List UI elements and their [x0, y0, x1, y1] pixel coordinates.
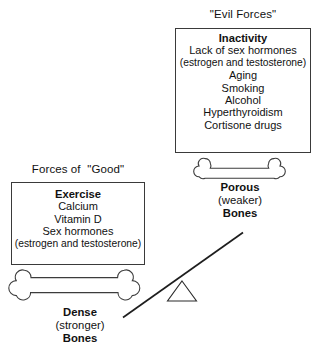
dense-bone-label-line3: Bones — [30, 332, 130, 345]
evil-item-5: Alcohol — [176, 94, 310, 106]
good-forces-heading: Forces of "Good" — [11, 163, 145, 176]
evil-item-3: Aging — [176, 69, 310, 81]
porous-bone-label-line2: (weaker) — [194, 194, 286, 207]
dense-bone-label-line1: Dense — [30, 306, 130, 319]
dense-bone-label-line2: (stronger) — [30, 319, 130, 332]
good-forces-box: Exercise Calcium Vitamin D Sex hormones … — [11, 182, 145, 265]
porous-bone-label: Porous (weaker) Bones — [194, 181, 286, 221]
evil-item-6: Hyperthyroidism — [176, 106, 310, 118]
evil-item-7: Cortisone drugs — [176, 119, 310, 131]
good-item-1: Calcium — [12, 200, 144, 212]
porous-bone-label-line3: Bones — [194, 207, 286, 220]
good-item-2: Vitamin D — [12, 213, 144, 225]
bone-balance-diagram: "Evil Forces" Inactivity Lack of sex hor… — [0, 0, 321, 354]
good-item-0: Exercise — [12, 188, 144, 200]
triangle-fulcrum-icon — [168, 281, 197, 301]
porous-bone-icon — [194, 158, 286, 178]
good-item-4: (estrogen and testosterone) — [12, 238, 144, 250]
evil-item-0: Inactivity — [176, 32, 310, 44]
dense-bone-icon — [9, 270, 140, 300]
evil-item-1: Lack of sex hormones — [176, 44, 310, 56]
evil-forces-box: Inactivity Lack of sex hormones (estroge… — [175, 28, 311, 153]
good-item-3: Sex hormones — [12, 225, 144, 237]
evil-item-4: Smoking — [176, 82, 310, 94]
porous-bone-label-line1: Porous — [194, 181, 286, 194]
evil-forces-heading: "Evil Forces" — [175, 8, 311, 21]
dense-bone-label: Dense (stronger) Bones — [30, 306, 130, 346]
evil-item-2: (estrogen and testosterone) — [176, 57, 310, 69]
